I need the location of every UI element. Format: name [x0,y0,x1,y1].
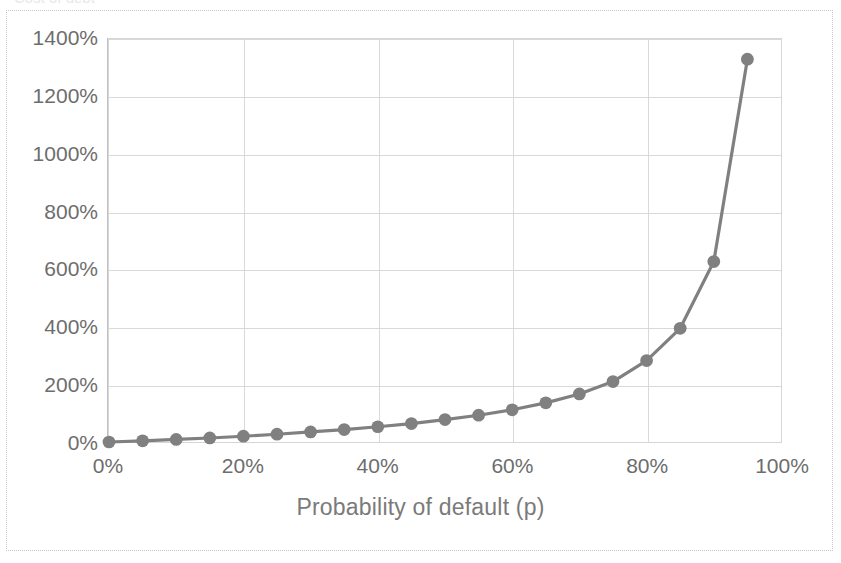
data-point-marker [674,322,687,335]
data-point-marker [203,432,216,445]
data-series-line [109,39,781,442]
data-point-marker [271,428,284,441]
data-point-marker [103,436,116,449]
y-tick-label: 600% [0,258,98,279]
chart-container: Cost of debt 0%200%400%600%800%1000%1200… [0,0,841,563]
data-point-marker [439,413,452,426]
plot-area [108,38,782,443]
data-point-marker [707,255,720,268]
x-tick-label: 100% [722,455,841,477]
y-tick-label: 400% [0,316,98,337]
y-tick-label: 800% [0,201,98,222]
x-tick-label: 40% [318,455,438,477]
data-point-marker [741,53,754,66]
x-tick-label: 20% [183,455,303,477]
data-point-marker [170,433,183,446]
series-line [109,59,747,442]
y-tick-label: 200% [0,374,98,395]
x-tick-label: 60% [452,455,572,477]
y-tick-label: 1000% [0,143,98,164]
data-point-marker [573,388,586,401]
data-point-marker [136,434,149,447]
data-point-marker [472,409,485,422]
y-tick-label: 0% [0,432,98,453]
x-tick-label: 80% [587,455,707,477]
data-point-marker [640,354,653,367]
data-point-marker [405,417,418,430]
data-point-marker [304,426,317,439]
data-point-marker [539,396,552,409]
data-point-marker [607,375,620,388]
data-point-marker [371,420,384,433]
y-tick-label: 1400% [0,27,98,48]
x-axis-tick-labels: 0%20%40%60%80%100% [0,455,841,485]
x-tick-label: 0% [48,455,168,477]
data-point-marker [506,403,519,416]
data-point-marker [338,423,351,436]
data-point-marker [237,430,250,443]
x-axis-title: Probability of default (p) [0,494,841,521]
y-tick-label: 1200% [0,85,98,106]
